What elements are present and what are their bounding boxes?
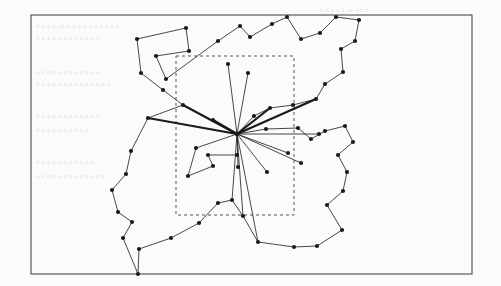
- dashed-bounding-rectangle-group: [176, 56, 294, 215]
- node-marker-15: [339, 47, 343, 51]
- node-marker-61: [226, 62, 230, 66]
- outer-frame: [31, 15, 472, 274]
- bleed-through-text-6: a a a a a a a a a a: [36, 126, 89, 134]
- node-marker-39: [216, 201, 220, 205]
- node-marker-2: [187, 49, 191, 53]
- figure-root: a a s a a ae an aa a a a aa a a a a a a …: [0, 0, 501, 286]
- bleed-through-text-0: a a s a a ae an a: [320, 6, 368, 14]
- node-marker-50: [146, 116, 150, 120]
- node-marker-23: [264, 127, 268, 131]
- bleed-through-text-1: a a a a aa a a a a a a a a a a: [36, 22, 119, 30]
- node-marker-8: [270, 22, 274, 26]
- node-markers: [110, 15, 361, 276]
- node-marker-17: [323, 82, 327, 86]
- node-marker-25: [309, 137, 313, 141]
- node-marker-6: [238, 24, 242, 28]
- central-hub-marker: [235, 132, 239, 136]
- node-marker-43: [136, 272, 140, 276]
- node-marker-45: [130, 220, 134, 224]
- bleed-through-text-2: a a a a a a a a a a a a: [36, 34, 99, 42]
- node-marker-20: [268, 106, 272, 110]
- dashed-bounding-rectangle: [176, 56, 294, 215]
- central-hub-node: [235, 132, 239, 136]
- node-marker-49: [129, 149, 133, 153]
- bleed-through-text-3: a a a a a a a a a a a a: [36, 68, 99, 76]
- node-marker-28: [351, 140, 355, 144]
- node-marker-3: [154, 54, 158, 58]
- node-marker-56: [211, 164, 215, 168]
- node-marker-53: [139, 71, 143, 75]
- node-marker-34: [315, 244, 319, 248]
- node-marker-0: [135, 37, 139, 41]
- node-marker-4: [164, 77, 168, 81]
- spoke-edge-9: [237, 134, 301, 163]
- spoke-edge-7: [237, 73, 248, 134]
- node-marker-37: [241, 214, 245, 218]
- node-marker-51: [181, 103, 185, 107]
- node-marker-5: [216, 39, 220, 43]
- node-marker-14: [353, 39, 357, 43]
- node-marker-10: [299, 37, 303, 41]
- node-marker-30: [345, 170, 349, 174]
- node-marker-66: [236, 165, 240, 169]
- inner-chain-path: [188, 148, 237, 176]
- node-marker-60: [317, 132, 321, 136]
- bleed-through-text-5: a a a a a a a a a a a a: [36, 112, 99, 120]
- node-marker-55: [186, 174, 190, 178]
- node-marker-21: [252, 114, 256, 118]
- node-marker-44: [121, 236, 125, 240]
- node-marker-9: [285, 15, 289, 19]
- node-marker-40: [197, 221, 201, 225]
- node-marker-62: [246, 71, 250, 75]
- spoke-edge-13: [237, 134, 243, 216]
- node-marker-63: [286, 151, 290, 155]
- bleed-through-text-8: a a a a a a a a a a a a a: [36, 172, 105, 180]
- outer-frame-group: [31, 15, 472, 274]
- node-marker-46: [116, 210, 120, 214]
- spoke-edge-6: [228, 64, 237, 134]
- node-marker-38: [230, 198, 234, 202]
- spoke-edge-15: [196, 134, 237, 148]
- node-marker-12: [334, 15, 338, 19]
- outer-tour-path: [112, 17, 359, 274]
- node-marker-19: [291, 103, 295, 107]
- bleed-through-text-7: a a a a a a a a a a a: [36, 158, 94, 166]
- node-marker-52: [161, 88, 165, 92]
- node-marker-42: [137, 247, 141, 251]
- node-marker-16: [341, 70, 345, 74]
- node-marker-29: [336, 153, 340, 157]
- node-marker-11: [318, 31, 322, 35]
- node-marker-33: [340, 228, 344, 232]
- node-marker-57: [206, 153, 210, 157]
- node-marker-18: [314, 97, 318, 101]
- outer-tour-polygon: [112, 17, 359, 274]
- node-marker-32: [325, 203, 329, 207]
- node-marker-54: [194, 146, 198, 150]
- node-marker-65: [265, 170, 269, 174]
- node-marker-48: [124, 172, 128, 176]
- node-marker-59: [211, 118, 215, 122]
- bleed-through-text-4: a a a a a a a a a a a a a a: [36, 80, 110, 88]
- node-marker-41: [169, 236, 173, 240]
- node-marker-7: [248, 35, 252, 39]
- figure-canvas: [0, 0, 501, 286]
- node-marker-24: [296, 126, 300, 130]
- node-marker-26: [323, 129, 327, 133]
- node-marker-27: [343, 124, 347, 128]
- node-marker-35: [292, 245, 296, 249]
- node-marker-36: [256, 240, 260, 244]
- spoke-edge-14: [237, 134, 258, 242]
- node-marker-58: [235, 153, 239, 157]
- node-marker-1: [184, 26, 188, 30]
- node-marker-31: [341, 189, 345, 193]
- node-marker-47: [110, 188, 114, 192]
- node-marker-13: [357, 18, 361, 22]
- inner-chain-polyline: [188, 148, 237, 176]
- node-marker-64: [299, 161, 303, 165]
